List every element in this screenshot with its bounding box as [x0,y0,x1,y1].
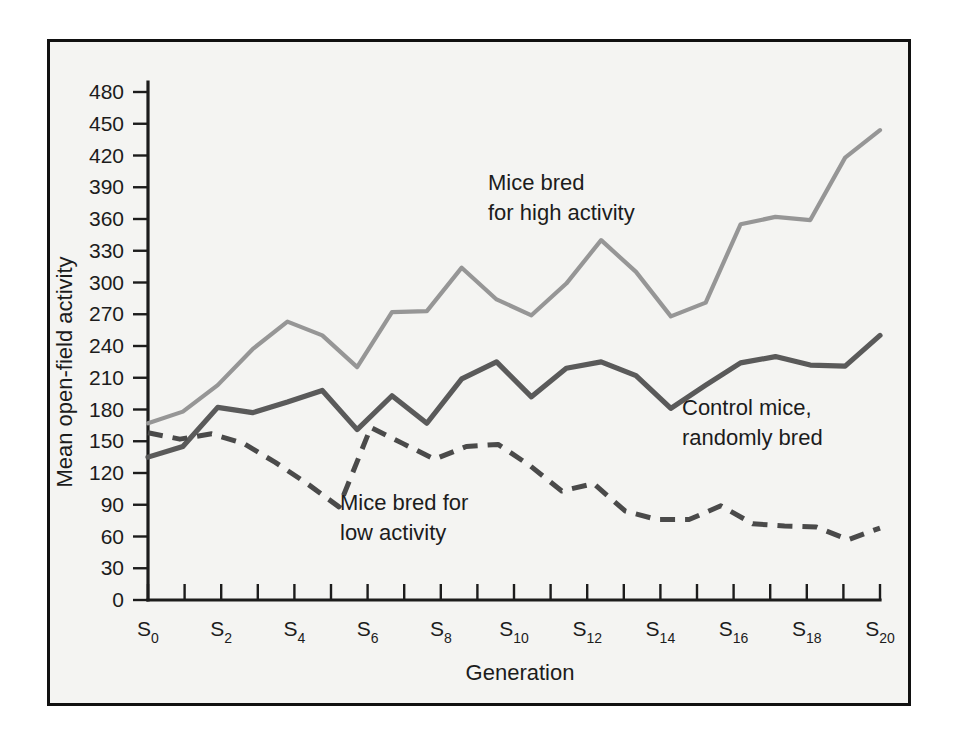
line-chart-plot: 0306090120150180210240270300330360390420… [50,42,908,703]
x-tick-label: S6 [357,617,379,646]
y-axis [133,82,148,600]
y-tick-label: 390 [89,175,124,198]
y-tick-label: 180 [89,398,124,421]
y-tick-labels: 0306090120150180210240270300330360390420… [89,80,124,611]
y-tick-label: 270 [89,302,124,325]
y-tick-label: 450 [89,112,124,135]
x-tick-label: S10 [499,617,529,646]
x-tick-label: S0 [137,617,159,646]
x-tick-label: S8 [430,617,452,646]
y-tick-label: 30 [101,556,124,579]
y-tick-label: 0 [112,588,124,611]
chart-page: 0306090120150180210240270300330360390420… [0,0,964,745]
low-activity-label: Mice bred forlow activity [340,490,468,545]
x-tick-label: S4 [283,617,305,646]
x-tick-label: S14 [646,617,676,646]
y-axis-title: Mean open-field activity [52,256,77,487]
y-tick-label: 60 [101,525,124,548]
x-tick-label: S2 [210,617,232,646]
y-tick-label: 330 [89,239,124,262]
x-tick-label: S12 [572,617,602,646]
high-activity-label: Mice bredfor high activity [488,170,635,225]
y-tick-label: 300 [89,271,124,294]
y-tick-label: 210 [89,366,124,389]
x-tick-label: S20 [865,617,895,646]
x-tick-labels: S0S2S4S6S8S10S12S14S16S18S20 [137,617,895,646]
x-tick-label: S18 [792,617,822,646]
y-tick-label: 90 [101,493,124,516]
control-label: Control mice,randomly bred [682,395,823,450]
y-tick-label: 150 [89,429,124,452]
y-tick-label: 240 [89,334,124,357]
x-axis-title: Generation [466,660,575,685]
y-tick-label: 420 [89,144,124,167]
x-axis [148,584,880,600]
y-tick-label: 360 [89,207,124,230]
figure-frame: 0306090120150180210240270300330360390420… [47,39,911,706]
x-tick-label: S16 [719,617,749,646]
y-tick-label: 480 [89,80,124,103]
y-tick-label: 120 [89,461,124,484]
